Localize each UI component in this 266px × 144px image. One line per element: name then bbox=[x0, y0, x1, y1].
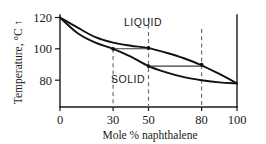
x-tick-label-100: 100 bbox=[228, 113, 247, 127]
y-tick-label-80: 80 bbox=[40, 74, 53, 88]
y-axis-title: Temperature, °C ↑ bbox=[12, 20, 25, 105]
x-axis-title: Mole % naphthalene bbox=[102, 129, 197, 142]
phase-diagram-figure: Temperature, °C ↑ 120 100 80 0 30 50 80 … bbox=[0, 0, 266, 144]
y-tick-label-120: 120 bbox=[33, 11, 52, 25]
tie-marker-liquidus-80 bbox=[200, 63, 204, 67]
y-tick-label-100: 100 bbox=[33, 42, 52, 56]
tie-marker-solidus-30 bbox=[111, 47, 115, 51]
region-label-liquid: LIQUID bbox=[124, 16, 162, 28]
region-label-solid: SOLID bbox=[111, 73, 145, 85]
x-tick-label-80: 80 bbox=[195, 113, 208, 127]
x-tick-label-0: 0 bbox=[57, 113, 63, 127]
phase-diagram-svg: Temperature, °C ↑ 120 100 80 0 30 50 80 … bbox=[0, 0, 266, 144]
x-tick-label-50: 50 bbox=[142, 113, 155, 127]
tie-marker-liquidus-50 bbox=[147, 46, 151, 50]
x-tick-label-30: 30 bbox=[107, 113, 120, 127]
tie-marker-solidus-50 bbox=[147, 64, 151, 68]
